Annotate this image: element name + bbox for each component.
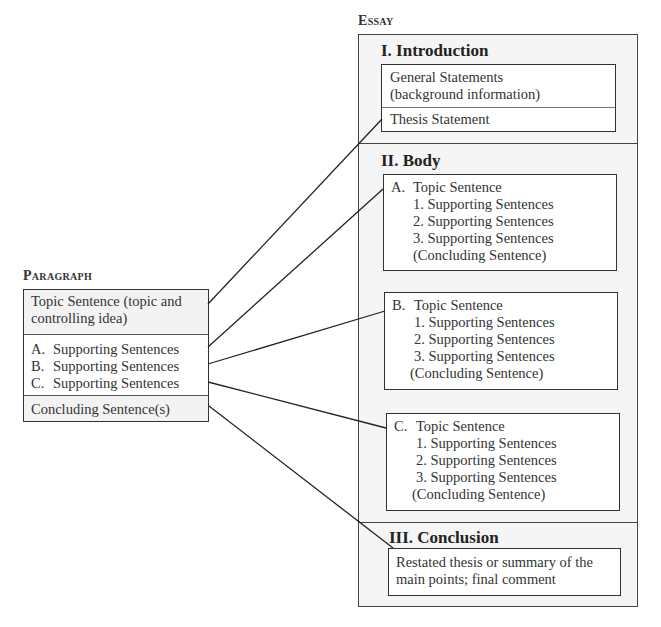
section-divider <box>359 143 637 144</box>
marker: B. <box>392 297 414 314</box>
supporting-line: 2. Supporting Sentences <box>392 331 555 348</box>
general-statements: General Statements (background informati… <box>390 69 540 103</box>
cropped-caption-fragment <box>0 0 330 4</box>
essay-diagram: I. Introduction General Statements (back… <box>358 34 638 607</box>
supporting-line: 3. Supporting Sentences <box>391 230 554 247</box>
conclusion-box: Restated thesis or summary of the main p… <box>388 548 621 596</box>
supporting-line: 2. Supporting Sentences <box>391 213 554 230</box>
paragraph-topic-line: controlling idea) <box>31 310 201 327</box>
paragraph-topic-line: Topic Sentence (topic and <box>31 293 201 310</box>
thesis-statement: Thesis Statement <box>390 111 489 128</box>
item-text: Supporting Sentences <box>53 358 179 374</box>
conclusion-title: III. Conclusion <box>389 528 499 548</box>
supporting-line: 1. Supporting Sentences <box>394 435 557 452</box>
paragraph-supporting-section: A.Supporting Sentences B.Supporting Sent… <box>24 335 208 395</box>
introduction-title: I. Introduction <box>381 41 488 61</box>
body-paragraph-c: C.Topic Sentence 1. Supporting Sentences… <box>386 413 620 511</box>
topic-text: Topic Sentence <box>416 418 505 434</box>
body-title: II. Body <box>381 151 441 171</box>
topic-text: Topic Sentence <box>413 179 502 195</box>
supporting-item-c: C.Supporting Sentences <box>31 375 201 392</box>
body-paragraph-text: A.Topic Sentence 1. Supporting Sentences… <box>391 179 554 264</box>
supporting-line: 2. Supporting Sentences <box>394 452 557 469</box>
body-paragraph-b: B.Topic Sentence 1. Supporting Sentences… <box>384 292 618 390</box>
topic-line: A.Topic Sentence <box>391 179 554 196</box>
supporting-item-a: A.Supporting Sentences <box>31 341 201 358</box>
topic-line: C.Topic Sentence <box>394 418 557 435</box>
concluding-line: (Concluding Sentence) <box>391 247 554 264</box>
supporting-line: 3. Supporting Sentences <box>392 348 555 365</box>
conclusion-line: Restated thesis or summary of the <box>396 554 593 571</box>
topic-line: B.Topic Sentence <box>392 297 555 314</box>
paragraph-diagram: Topic Sentence (topic and controlling id… <box>23 289 209 422</box>
concluding-line: (Concluding Sentence) <box>392 365 555 382</box>
general-line: (background information) <box>390 86 540 103</box>
supporting-line: 1. Supporting Sentences <box>392 314 555 331</box>
marker: A. <box>391 179 413 196</box>
divider <box>382 107 615 108</box>
conclusion-text: Restated thesis or summary of the main p… <box>396 554 593 588</box>
connector-topic-to-thesis <box>208 119 382 304</box>
marker: B. <box>31 358 53 375</box>
supporting-item-b: B.Supporting Sentences <box>31 358 201 375</box>
supporting-line: 1. Supporting Sentences <box>391 196 554 213</box>
conclusion-line: main points; final comment <box>396 571 593 588</box>
body-paragraph-text: C.Topic Sentence 1. Supporting Sentences… <box>394 418 557 503</box>
concluding-line: (Concluding Sentence) <box>394 486 557 503</box>
paragraph-concluding-section: Concluding Sentence(s) <box>24 396 208 421</box>
topic-text: Topic Sentence <box>414 297 503 313</box>
item-text: Supporting Sentences <box>53 375 179 391</box>
section-divider <box>359 522 637 523</box>
essay-heading: Essay <box>358 13 394 29</box>
paragraph-heading: Paragraph <box>23 268 92 284</box>
supporting-line: 3. Supporting Sentences <box>394 469 557 486</box>
general-line: General Statements <box>390 69 540 86</box>
paragraph-topic-section: Topic Sentence (topic and controlling id… <box>24 290 208 334</box>
body-paragraph-text: B.Topic Sentence 1. Supporting Sentences… <box>392 297 555 382</box>
body-paragraph-a: A.Topic Sentence 1. Supporting Sentences… <box>383 174 617 271</box>
concluding-text: Concluding Sentence(s) <box>31 401 201 418</box>
marker: C. <box>31 375 53 392</box>
connector-a-to-body-a <box>208 189 383 347</box>
marker: C. <box>394 418 416 435</box>
marker: A. <box>31 341 53 358</box>
introduction-box: General Statements (background informati… <box>381 64 616 132</box>
item-text: Supporting Sentences <box>53 341 179 357</box>
